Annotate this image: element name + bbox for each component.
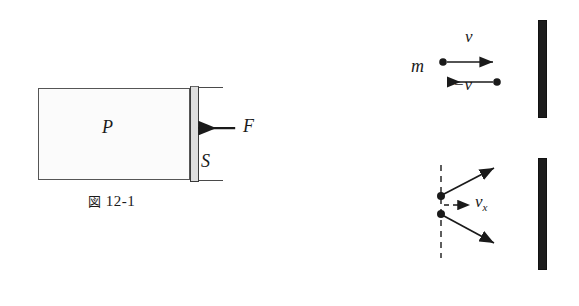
mass-label: m — [411, 57, 424, 75]
figure-12-1-arrows — [0, 0, 289, 306]
velocity-out-label: −v — [453, 76, 472, 93]
figure-12-2-arrows — [290, 0, 579, 306]
figure-12-1-number: 12-1 — [106, 193, 136, 209]
zu-kanji-1: 図 — [88, 195, 102, 208]
velocity-up-right-arrow — [444, 168, 494, 194]
pressure-label: P — [102, 118, 113, 136]
figure-12-1: P S F 図 12-1 — [0, 0, 290, 306]
velocity-x-sub: x — [483, 201, 488, 213]
figure-12-1-caption: 図 12-1 — [88, 193, 135, 210]
velocity-x-base: v — [475, 192, 483, 211]
velocity-x-label: vx — [475, 193, 487, 213]
area-label: S — [201, 152, 210, 170]
velocity-down-right-arrow — [444, 216, 494, 243]
figure-12-2: m v −v vx 図 12-2 — [290, 0, 579, 306]
particle-outgoing-upper — [493, 78, 501, 86]
velocity-in-label: v — [465, 28, 473, 45]
figure-sheet: P S F 図 12-1 — [0, 0, 579, 306]
particle-incoming-upper — [439, 58, 447, 66]
force-label: F — [243, 117, 254, 135]
